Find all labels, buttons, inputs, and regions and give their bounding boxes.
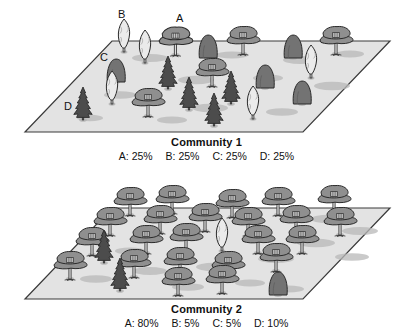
community-1-stats: A: 25% B: 25% C: 25% D: 25% <box>0 149 413 164</box>
community-1-panel: B A C D Community 1 A: 25% B: 25% C: 25%… <box>0 0 413 168</box>
stat-C: C: 25% <box>212 149 246 164</box>
community-1-scene <box>0 0 413 140</box>
stat-A: A: 80% <box>125 316 159 331</box>
species-callout-B: B <box>118 9 125 20</box>
tree-C <box>199 35 217 60</box>
community-2-title: Community 2 <box>0 302 413 316</box>
tree-C <box>284 35 302 60</box>
species-callout-D: D <box>64 101 72 112</box>
community-2-caption: Community 2 A: 80% B: 5% C: 5% D: 10% <box>0 302 413 331</box>
species-callout-C: C <box>100 52 108 63</box>
stat-D: D: 25% <box>260 149 294 164</box>
stat-B: B: 5% <box>171 316 199 331</box>
stat-C: C: 5% <box>212 316 241 331</box>
stat-B: B: 25% <box>166 149 200 164</box>
community-1-title: Community 1 <box>0 135 413 149</box>
community-2-panel: Community 2 A: 80% B: 5% C: 5% D: 10% <box>0 167 413 335</box>
stat-A: A: 25% <box>119 149 153 164</box>
species-callout-A: A <box>176 13 183 24</box>
community-2-stats: A: 80% B: 5% C: 5% D: 10% <box>0 316 413 331</box>
community-1-caption: Community 1 A: 25% B: 25% C: 25% D: 25% <box>0 135 413 164</box>
community-2-scene <box>0 167 413 307</box>
stat-D: D: 10% <box>254 316 288 331</box>
